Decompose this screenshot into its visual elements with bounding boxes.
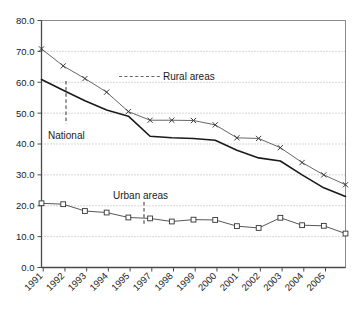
data-point-marker-x [82,76,87,81]
data-point-marker-square [148,216,153,221]
y-tick-label: 60.0 [16,77,35,88]
x-tick-label: 1995 [109,270,132,293]
line-chart: 0.010.020.030.040.050.060.070.080.0 1991… [0,0,363,320]
x-tick-label: 2005 [304,270,327,293]
x-axis: 1991199219931994199519971998199920002001… [22,268,327,293]
x-tick-label: 2000 [196,270,219,293]
x-tick-label: 1997 [130,270,153,293]
data-point-marker-x [104,90,109,95]
x-tick-label: 1993 [65,270,88,293]
series-rural-areas [39,46,348,187]
y-tick-label: 70.0 [16,46,35,57]
y-tick-label: 40.0 [16,138,35,149]
national-label: National [48,130,85,141]
data-point-marker-square [300,223,305,228]
x-tick-label: 1991 [22,270,45,293]
data-point-marker-square [126,215,131,220]
data-point-marker-square [235,224,240,229]
y-tick-label: 50.0 [16,108,35,119]
x-tick-label: 2004 [282,270,305,293]
data-point-marker-x [278,145,283,150]
data-point-marker-square [104,210,109,215]
data-point-marker-square [39,201,44,206]
y-tick-label: 10.0 [16,231,35,242]
data-point-marker-square [213,218,218,223]
data-point-marker-x [299,160,304,165]
chart-canvas: 0.010.020.030.040.050.060.070.080.0 1991… [0,0,363,320]
series-line [42,79,346,196]
y-axis: 0.010.020.030.040.050.060.070.080.0 [16,15,42,273]
data-point-marker-square [191,217,196,222]
series-urban-areas [39,201,348,236]
rural-areas-label: Rural areas [163,71,215,82]
data-point-marker-square [278,215,283,220]
y-tick-label: 0.0 [21,262,34,273]
x-tick-label: 1998 [152,270,175,293]
urban-areas-label: Urban areas [113,190,168,201]
data-point-marker-square [321,223,326,228]
data-point-marker-square [343,231,348,236]
y-tick-label: 30.0 [16,169,35,180]
series-national [42,79,346,196]
x-tick-label: 1994 [87,270,110,293]
gridlines [42,51,346,267]
x-tick-label: 2003 [261,270,284,293]
x-tick-label: 1999 [174,270,197,293]
data-point-marker-square [83,209,88,214]
data-point-marker-x [126,109,131,114]
y-tick-label: 80.0 [16,15,35,26]
data-point-marker-x [61,63,66,68]
data-point-marker-x [321,172,326,177]
x-tick-label: 1992 [44,270,67,293]
y-tick-label: 20.0 [16,200,35,211]
data-point-marker-square [61,202,66,207]
data-point-marker-square [169,219,174,224]
data-point-marker-square [256,226,261,231]
x-tick-label: 2002 [239,270,262,293]
x-tick-label: 2001 [217,270,240,293]
